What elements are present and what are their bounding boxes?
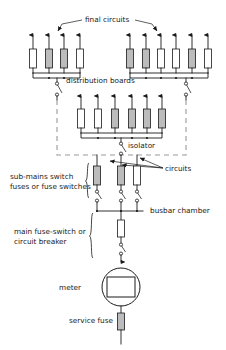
main-fuse-label-line1: main fuse-switch or: [14, 227, 86, 236]
main-fuse-symbol: [118, 220, 125, 237]
fuse-symbol: [112, 109, 119, 128]
middle-board-final-circuits: [81, 96, 162, 110]
circuits-label: circuits: [165, 164, 191, 173]
dashed-enclosure: [57, 100, 186, 155]
fuse-symbol: [30, 49, 37, 68]
diagram-root: final circuits: [0, 0, 226, 350]
sub-main-switch-3: [135, 185, 141, 211]
fuse-symbol: [118, 166, 125, 185]
fuse-symbol: [189, 49, 196, 68]
fuse-symbol: [61, 49, 68, 68]
sub-main-switch-1: [95, 185, 101, 211]
service-fuse: service fuse: [69, 306, 124, 344]
dashed-feeder-boundary: [57, 100, 186, 155]
main-fuse-brace: [90, 213, 94, 258]
distribution-boards-label: distribution boards: [66, 76, 135, 85]
middle-board-fuses: [78, 109, 166, 128]
isolator-label: isolator: [128, 141, 155, 150]
fuse-symbol: [95, 109, 102, 128]
final-circuits-label: final circuits: [85, 15, 129, 24]
final-circuits-callout: final circuits: [58, 15, 157, 31]
fuse-symbol: [158, 49, 165, 68]
fuse-symbol: [129, 109, 136, 128]
right-distribution-board: [127, 35, 212, 100]
fuse-symbol: [94, 166, 101, 185]
fuse-symbol: [173, 49, 180, 68]
final-circuits-arrow-left: [58, 20, 82, 31]
main-fuse-label-line2: circuit breaker: [14, 237, 67, 246]
meter-label: meter: [59, 283, 81, 292]
right-board-fuses: [127, 49, 212, 68]
left-board-final-circuits: [33, 35, 80, 50]
sub-mains-label-line1: sub-mains switch: [10, 172, 73, 181]
final-circuits-arrow-right: [135, 20, 157, 31]
service-fuse-label: service fuse: [69, 316, 113, 325]
sub-mains-brace: [86, 163, 90, 198]
busbar-chamber: busbar chamber: [96, 206, 210, 215]
sub-main-switch-2: [119, 185, 125, 211]
main-fuse-switch: main fuse-switch or circuit breaker: [14, 211, 126, 262]
meter-symbol: meter: [59, 268, 140, 306]
fuse-symbol: [144, 109, 151, 128]
sub-mains-label-line2: fuses or fuse switches: [10, 182, 91, 191]
fuse-symbol: [46, 49, 53, 68]
isolator-switch: [119, 138, 126, 166]
left-distribution-board: [30, 35, 84, 100]
sub-mains-switchfuses: sub-mains switch fuses or fuse switches: [10, 155, 142, 211]
fuse-symbol: [143, 49, 150, 68]
distribution-schematic-svg: final circuits: [0, 0, 226, 350]
left-board-fuses: [30, 49, 84, 68]
middle-distribution-board: isolator: [78, 96, 166, 166]
right-board-final-circuits: [130, 35, 208, 50]
fuse-symbol: [134, 166, 141, 185]
fuse-symbol: [159, 109, 166, 128]
fuse-symbol: [127, 49, 134, 68]
fuse-symbol: [77, 49, 84, 68]
fuse-symbol: [205, 49, 212, 68]
service-fuse-symbol: [118, 313, 125, 330]
fuse-symbol: [78, 109, 85, 128]
busbar-chamber-label: busbar chamber: [150, 206, 210, 215]
